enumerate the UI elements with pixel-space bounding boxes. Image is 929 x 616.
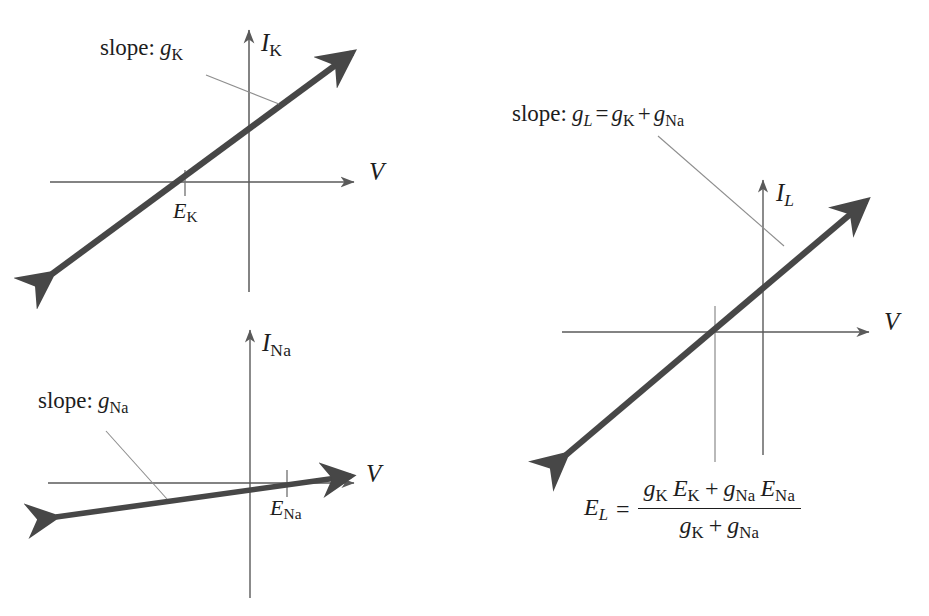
leak-slope-term1-symbol: g — [611, 101, 623, 126]
leak-slope-word: slope: — [512, 101, 567, 126]
sodium-slope-leader-line — [106, 431, 167, 499]
num-ena-symbol: E — [760, 475, 775, 501]
sodium-slope-word: slope: — [38, 388, 93, 413]
sodium-slope-annotation: slope:gNa — [38, 389, 129, 416]
sodium-current-subscript: Na — [270, 340, 291, 360]
sodium-iv-line — [56, 476, 351, 517]
leak-equation-fraction-bar — [638, 508, 801, 510]
potassium-iv-line — [52, 53, 352, 274]
leak-x-axis-label: V — [884, 309, 899, 334]
leak-y-axis-label: IL — [776, 180, 794, 209]
leak-equation-fraction: gKEK+gNaENa gK+gNa — [638, 474, 801, 544]
sodium-conductance-subscript: Na — [109, 399, 128, 416]
potassium-reversal-label: EK — [173, 200, 198, 225]
potassium-slope-word: slope: — [100, 35, 155, 60]
den-gk-symbol: g — [679, 512, 691, 538]
num-ena-subscript: Na — [775, 486, 795, 505]
sodium-reversal-subscript: Na — [283, 505, 301, 522]
leak-reversal-lhs: EL — [584, 495, 608, 524]
panel-leak-leader — [658, 136, 784, 246]
figure-canvas: IK V EK slope:gK INa V ENa slope:gNa IL … — [0, 0, 929, 616]
panel-leak-curve — [566, 201, 866, 455]
num-gna-symbol: g — [723, 475, 735, 501]
leak-conductance-symbol: g — [572, 101, 584, 126]
leak-reversal-symbol: E — [584, 494, 599, 520]
leak-slope-term2-symbol: g — [654, 101, 666, 126]
leak-slope-term1-subscript: K — [623, 112, 635, 129]
num-gk-subscript: K — [656, 486, 668, 505]
leak-equation-equals: = — [616, 497, 630, 521]
leak-equation-denominator: gK+gNa — [673, 511, 765, 544]
potassium-slope-leader-line — [206, 75, 279, 104]
leak-slope-plus: + — [635, 101, 654, 126]
potassium-conductance-subscript: K — [171, 46, 183, 63]
potassium-slope-annotation: slope:gK — [100, 36, 183, 63]
leak-voltage-symbol: V — [884, 308, 899, 335]
leak-reversal-subscript: L — [599, 504, 608, 523]
den-gna-symbol: g — [727, 512, 739, 538]
potassium-y-axis-label: IK — [261, 30, 282, 59]
sodium-reversal-symbol: E — [270, 495, 283, 520]
leak-equation-numerator: gKEK+gNaENa — [638, 474, 801, 507]
sodium-x-axis-label: V — [366, 461, 381, 486]
potassium-conductance-symbol: g — [160, 35, 172, 60]
den-gna-subscript: Na — [739, 523, 759, 542]
den-plus: + — [704, 512, 728, 538]
leak-slope-equals: = — [592, 101, 611, 126]
panel-sodium-curve — [56, 476, 351, 517]
leak-iv-line — [566, 201, 866, 455]
sodium-y-axis-label: INa — [262, 330, 291, 359]
potassium-reversal-subscript: K — [186, 208, 197, 225]
panel-potassium-curve — [52, 53, 352, 274]
leak-current-subscript: L — [784, 190, 794, 210]
num-ek-subscript: K — [688, 486, 700, 505]
num-gna-subscript: Na — [735, 486, 755, 505]
sodium-conductance-symbol: g — [98, 388, 110, 413]
sodium-voltage-symbol: V — [366, 460, 381, 487]
panel-potassium-leader — [206, 75, 279, 104]
sodium-reversal-label: ENa — [270, 497, 302, 522]
potassium-reversal-symbol: E — [173, 198, 186, 223]
num-ek-symbol: E — [673, 475, 688, 501]
potassium-current-subscript: K — [269, 40, 282, 60]
den-gk-subscript: K — [691, 523, 703, 542]
leak-slope-leader-line — [658, 136, 784, 246]
num-plus: + — [700, 475, 724, 501]
potassium-voltage-symbol: V — [369, 158, 384, 185]
leak-slope-term2-subscript: Na — [665, 112, 684, 129]
panel-sodium-axes — [48, 330, 354, 598]
potassium-x-axis-label: V — [369, 159, 384, 184]
panel-sodium-leader — [106, 431, 167, 499]
num-gk-symbol: g — [644, 475, 656, 501]
leak-reversal-equation: EL = gKEK+gNaENa gK+gNa — [584, 474, 801, 544]
leak-slope-annotation: slope:gL=gK+gNa — [512, 102, 684, 129]
